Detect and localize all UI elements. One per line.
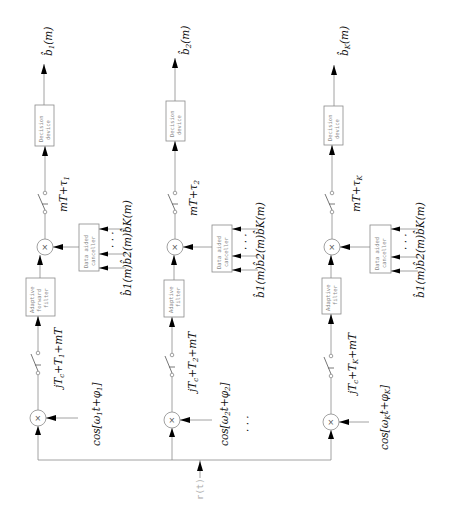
chip-sampler-label-1: jTc+T1+mT [52,327,66,390]
arrow-left-icon [339,419,349,425]
canceller-label-line-1: Data aided [83,235,89,268]
output-arrow-icon [331,65,337,75]
arrow-left-icon [46,415,56,421]
filter-label-line-1: Adaptive [29,287,36,314]
canceller-dots: · · · [400,233,412,250]
canceller-label-line-2: canceller [381,238,387,268]
branch-1: × cos[ω1t+φ1] jTc+T1+mT Adaptive forward… [26,27,133,460]
canceller-label-line-1: Data aided [216,236,222,269]
arrow-up-icon [171,255,177,265]
canceller-label-line-2: canceller [223,237,229,267]
filter-label-line-2: forward [36,289,42,312]
input-arrow [197,461,203,471]
output-sampler-label-2: mT+τ2 [187,179,201,216]
arrow-up-icon [328,430,334,439]
output-label-2: b̂2(m) [178,26,193,55]
switch-contact [329,374,333,378]
switch-contact [36,351,40,355]
arrow-left-icon [232,227,241,232]
switch-contact [36,371,40,375]
output-arrow-icon [41,64,47,74]
arrow-up-icon [37,255,43,265]
switch-contact [330,191,334,195]
canceller-label-line-1: Data aided [374,237,380,270]
switch-icon [31,354,38,371]
arrow-up-icon [329,145,335,155]
arrow-up-icon [328,314,334,324]
switch-icon [324,357,331,374]
output-arrow-icon [172,58,178,68]
carrier-label-2: cos[ω2t+φ2] [218,381,232,446]
output-sampler-label-k: mT+τK [350,174,364,212]
arrow-up-icon [35,316,41,326]
canceller-input-label-1: b̂1(m)b̂2(m)b̂K(m) [120,200,133,296]
canceller-input-label-2: b̂1(m)b̂2(m)b̂K(m) [253,202,266,298]
arrow-left-icon [391,269,400,274]
switch-contact [173,210,177,214]
filter-label-line-2: filter [175,286,181,307]
multiply-symbol: × [42,243,49,252]
branch-2: × cos[ω2t+φ2] jTc+T2+mT Adaptive filter … [164,26,266,460]
decision-label-line-1: Decision [169,111,175,138]
filter-label-line-1: Adaptive [168,287,175,314]
arrow-up-icon [42,146,48,156]
arrow-up-icon [169,317,175,327]
switch-contact [329,354,333,358]
arrow-left-icon [99,252,108,257]
filter-label-line-3: filter [43,287,49,308]
filter-label-line-2: filter [332,284,338,305]
multiply-symbol: × [329,243,336,252]
switch-contact [170,373,174,377]
arrow-left-icon [232,254,241,259]
canceller-input-label-k: b̂1(m)b̂2(m)b̂K(m) [413,202,426,298]
switch-contact [170,353,174,357]
arrow-left-icon [232,268,241,273]
arrow-left-icon [391,255,400,260]
switch-icon [325,194,332,210]
canceller-dots: · · · [240,233,252,250]
decision-label-line-2: device [45,120,51,140]
multiply-symbol: × [328,418,335,427]
arrow-up-icon [169,428,175,437]
decision-label-line-2: device [334,119,340,139]
arrow-left-icon [340,244,350,250]
arrow-left-icon [180,417,190,423]
canceller-label-line-2: canceller [90,236,96,266]
output-sampler-label-1: mT+τ1 [57,176,71,212]
arrow-left-icon [183,244,193,250]
arrow-up-icon [328,255,334,265]
arrow-up-icon [172,141,178,151]
branch-k: × cos[ωKt+φK] jTc+TK+mT Adaptive filter … [322,26,426,460]
switch-contact [330,210,334,214]
arrow-left-icon [53,244,63,250]
switch-icon [165,356,172,373]
chip-sampler-label-k: jTc+TK+mT [346,332,360,396]
switch-contact [43,191,47,195]
output-label-k: b̂K(m) [337,26,352,56]
multiply-symbol: × [172,243,179,252]
switch-contact [173,191,177,195]
filter-label-line-1: Adaptive [325,285,332,312]
decision-label-line-1: Decision [38,116,44,143]
rake-receiver-diagram: r(t) · · · × cos[ω1t+φ1] jTc+T1+mT Adapt… [0,0,462,529]
decision-label-line-2: device [176,115,182,135]
arrow-up-icon [35,426,41,435]
arrow-left-icon [99,227,108,232]
multiply-symbol: × [169,416,176,425]
between-branches-dots: · · · [242,415,254,432]
switch-contact [43,210,47,214]
decision-label-line-1: Decision [327,115,333,142]
carrier-label-1: cos[ω1t+φ1] [90,381,104,446]
switch-icon [38,194,45,210]
arrow-left-icon [391,227,400,232]
canceller-dots: · · · [107,231,119,248]
output-label-1: b̂1(m) [41,27,56,56]
chip-sampler-label-2: jTc+T2+mT [186,331,200,394]
switch-icon [168,194,175,210]
input-label-r-t: r(t) [195,478,205,500]
multiply-symbol: × [35,414,42,423]
arrow-left-icon [99,266,108,271]
carrier-label-k: cos[ωKt+φK] [378,384,392,450]
